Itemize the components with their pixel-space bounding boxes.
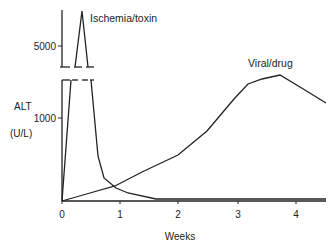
viral-series [62,75,326,201]
viral-annotation: Viral/drug [248,57,293,69]
ischemia-series-lower [62,80,71,201]
xtick-3-label: 3 [235,209,241,220]
ischemia-series-decline [91,80,326,199]
xtick-0-label: 0 [59,209,65,220]
ischemia-annotation: Ischemia/toxin [90,12,157,24]
ytick-5000-label: 5000 [34,41,57,52]
alt-time-course-chart: 5000 1000 0 1 2 3 4 ALT (U/L) Weeks Isch… [0,0,334,248]
xtick-4-label: 4 [293,209,299,220]
y-axis-title: ALT [14,101,32,112]
xtick-1-label: 1 [117,209,123,220]
ischemia-series-upper [75,11,88,67]
ytick-1000-label: 1000 [34,113,57,124]
y-axis-unit: (U/L) [10,128,32,139]
x-axis-title: Weeks [165,231,195,242]
xtick-2-label: 2 [175,209,181,220]
